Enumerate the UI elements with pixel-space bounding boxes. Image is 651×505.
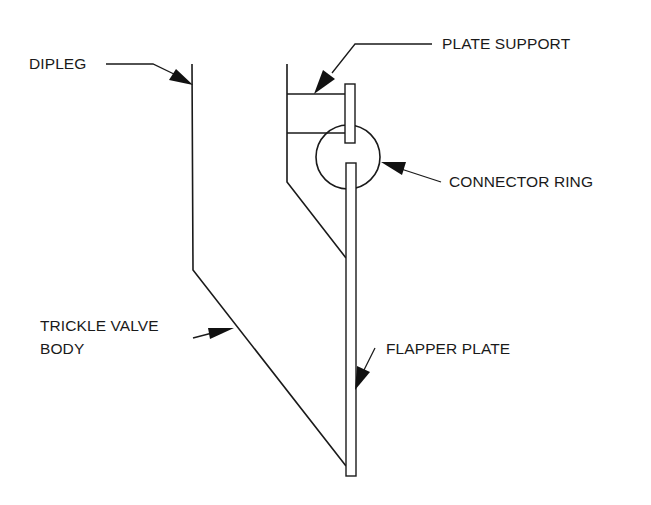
flapper-plate-arrowhead-icon <box>355 366 370 390</box>
dipleg-label: DIPLEG <box>29 53 86 75</box>
flapper-plate-leader <box>364 348 375 370</box>
trickle-valve-diagram <box>0 0 651 505</box>
connector-ring-arrowhead-icon <box>381 162 406 175</box>
upper-plate-hanger <box>345 84 355 143</box>
plate-support-leader <box>332 44 432 73</box>
trickle-valve-body-arrowhead-icon <box>208 328 234 339</box>
flapper-plate-shape <box>346 163 356 476</box>
dipleg-leader <box>106 64 178 76</box>
trickle-valve-body-label-line1: TRICKLE VALVE <box>40 315 159 337</box>
plate-support-arrowhead-icon <box>314 70 335 94</box>
plate-support-label: PLATE SUPPORT <box>442 33 570 55</box>
flapper-plate-label: FLAPPER PLATE <box>386 338 510 360</box>
trickle-valve-body-label-line2: BODY <box>40 338 84 360</box>
dipleg-left-wall <box>192 64 346 466</box>
dipleg-arrowhead-icon <box>169 69 193 85</box>
connector-ring-label: CONNECTOR RING <box>449 171 593 193</box>
